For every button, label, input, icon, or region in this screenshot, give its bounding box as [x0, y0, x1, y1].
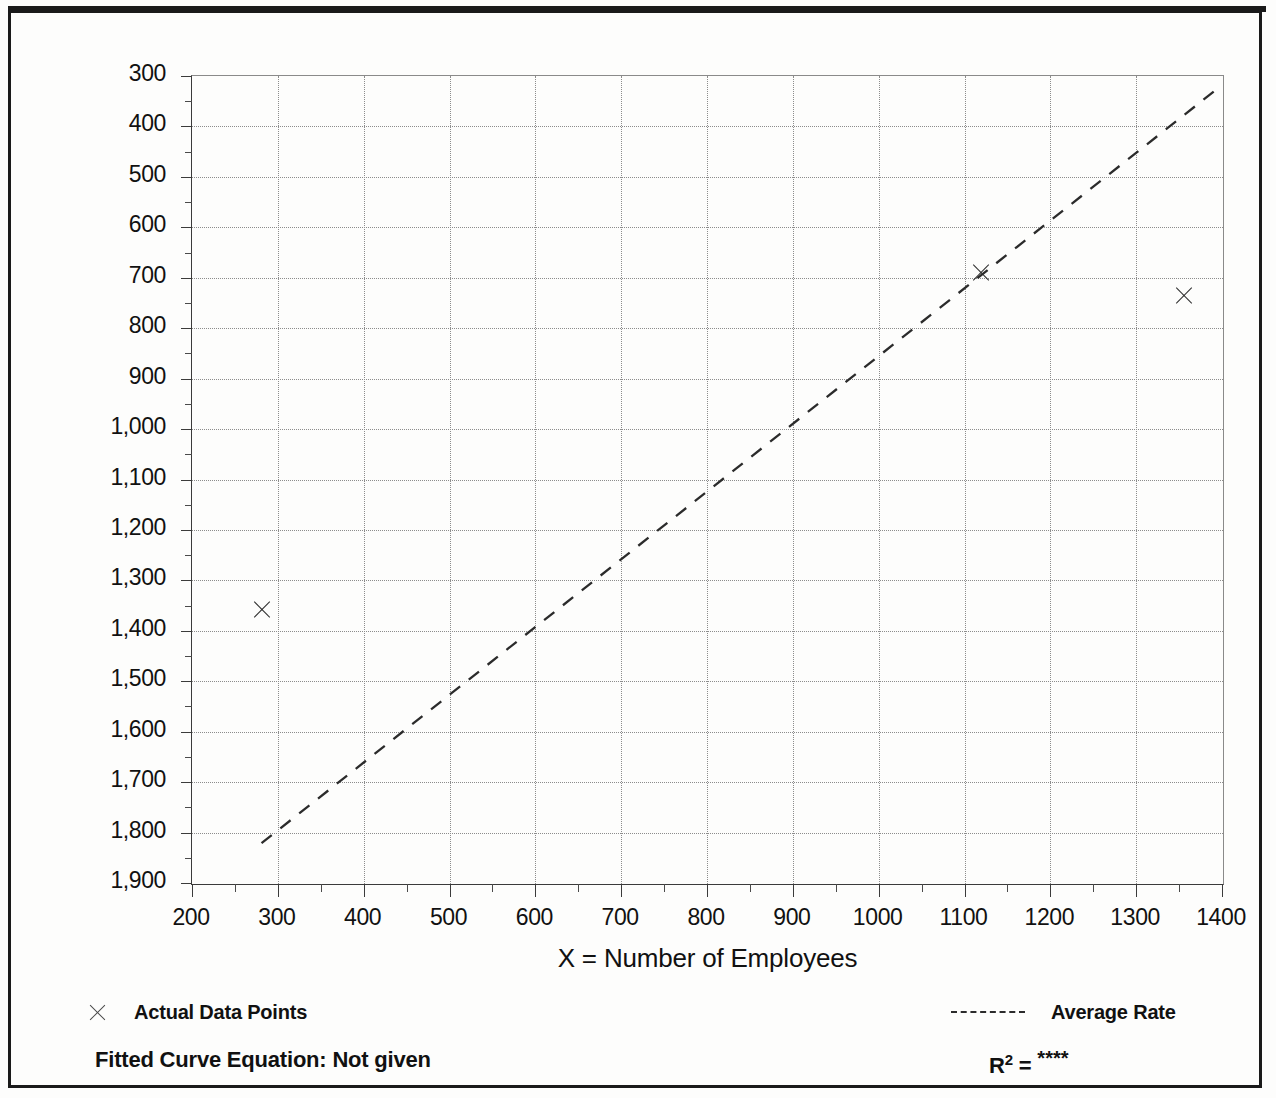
y-axis-tick [181, 379, 192, 380]
x-axis-tick-label: 900 [747, 904, 837, 931]
figure-page: T = Average Vehicle Trip Ends 1,9001,800… [0, 0, 1276, 1098]
r-squared-equals: = [1013, 1053, 1037, 1078]
gridline-vertical [707, 76, 708, 884]
x-axis-tick-label: 700 [575, 904, 665, 931]
footer: Fitted Curve Equation: Not given R2 = **… [11, 1043, 1259, 1089]
y-axis-tick [181, 530, 192, 531]
x-axis-tick [707, 884, 708, 897]
x-axis-tick [1050, 884, 1051, 897]
x-axis-minor-tick [750, 884, 751, 892]
y-axis-tick-label: 1,800 [46, 817, 166, 844]
x-axis-tick-label: 1100 [919, 904, 1009, 931]
y-axis-minor-tick [185, 505, 192, 506]
x-axis-tick-label: 600 [489, 904, 579, 931]
x-axis-tick [793, 884, 794, 897]
x-axis-tick-label: 500 [404, 904, 494, 931]
legend-item-average-rate: Average Rate [951, 991, 1176, 1033]
y-axis-minor-tick [185, 253, 192, 254]
legend-item-actual-data-points: Actual Data Points [87, 991, 307, 1033]
y-axis-minor-tick [185, 807, 192, 808]
x-axis-tick-label: 1200 [1004, 904, 1094, 931]
legend-label-actual-data-points: Actual Data Points [134, 1001, 307, 1024]
y-axis-tick-label: 1,900 [46, 867, 166, 894]
gridline-vertical [621, 76, 622, 884]
x-axis-tick-label: 200 [146, 904, 236, 931]
y-axis-tick-label: 1,400 [46, 615, 166, 642]
x-axis-minor-tick [235, 884, 236, 892]
x-axis-tick-label: 800 [661, 904, 751, 931]
x-axis-minor-tick [1007, 884, 1008, 892]
y-axis-tick [181, 126, 192, 127]
y-axis-minor-tick [185, 656, 192, 657]
y-axis-tick [181, 177, 192, 178]
y-axis-tick [181, 328, 192, 329]
gridline-vertical [1050, 76, 1051, 884]
y-axis-tick [181, 76, 192, 77]
y-axis-tick [181, 833, 192, 834]
y-axis-title: T = Average Vehicle Trip Ends [49, 0, 89, 115]
gridline-vertical [1136, 76, 1137, 884]
y-axis-minor-tick [185, 404, 192, 405]
y-axis-tick-label: 800 [46, 312, 166, 339]
figure-border-box: T = Average Vehicle Trip Ends 1,9001,800… [8, 10, 1262, 1088]
y-axis-minor-tick [185, 757, 192, 758]
r-squared-symbol: R [989, 1053, 1005, 1078]
y-axis-tick-label: 1,700 [46, 766, 166, 793]
gridline-vertical [793, 76, 794, 884]
x-axis-minor-tick [321, 884, 322, 892]
x-axis-tick [621, 884, 622, 897]
gridline-vertical [278, 76, 279, 884]
y-axis-tick-label: 500 [46, 161, 166, 188]
y-axis-minor-tick [185, 353, 192, 354]
x-axis-tick [965, 884, 966, 897]
y-axis-tick-label: 900 [46, 363, 166, 390]
legend-label-average-rate: Average Rate [1051, 1001, 1176, 1024]
data-point-marker [251, 599, 273, 621]
y-axis-tick [181, 227, 192, 228]
y-axis-tick-label: 1,100 [46, 464, 166, 491]
y-axis-tick-label: 700 [46, 262, 166, 289]
x-marker-icon [87, 1002, 108, 1023]
x-axis-tick [364, 884, 365, 897]
y-axis-tick [181, 580, 192, 581]
r-squared-value: **** [1037, 1047, 1068, 1069]
x-axis-tick [879, 884, 880, 897]
data-point-marker [970, 262, 992, 284]
y-axis-tick-label: 1,600 [46, 716, 166, 743]
y-axis-minor-tick [185, 858, 192, 859]
y-axis-minor-tick [185, 706, 192, 707]
y-axis-minor-tick [185, 101, 192, 102]
x-axis-tick-label: 400 [318, 904, 408, 931]
x-axis-minor-tick [407, 884, 408, 892]
y-axis-tick [181, 278, 192, 279]
x-axis-tick-label: 1300 [1090, 904, 1180, 931]
y-axis-tick-label: 400 [46, 110, 166, 137]
x-axis-minor-tick [1179, 884, 1180, 892]
x-axis-tick [535, 884, 536, 897]
y-axis-tick [181, 732, 192, 733]
y-axis-minor-tick [185, 303, 192, 304]
y-axis-tick-label: 1,500 [46, 665, 166, 692]
y-axis-tick [181, 782, 192, 783]
trendline-segment [262, 85, 1222, 843]
x-axis-minor-tick [836, 884, 837, 892]
x-axis-minor-tick [578, 884, 579, 892]
dashed-line-icon [951, 1011, 1025, 1013]
y-axis-minor-tick [185, 555, 192, 556]
y-axis-tick-label: 1,200 [46, 514, 166, 541]
x-axis-tick [450, 884, 451, 897]
plot-area [191, 75, 1224, 885]
gridline-vertical [965, 76, 966, 884]
y-axis-tick-label: 1,300 [46, 564, 166, 591]
x-axis-minor-tick [1093, 884, 1094, 892]
gridline-vertical [364, 76, 365, 884]
x-axis-minor-tick [922, 884, 923, 892]
y-axis-minor-tick [185, 152, 192, 153]
gridline-vertical [879, 76, 880, 884]
x-axis-title: X = Number of Employees [191, 943, 1224, 974]
data-point-marker [1173, 285, 1195, 307]
y-axis-tick-label: 600 [46, 211, 166, 238]
x-axis-minor-tick [492, 884, 493, 892]
y-axis-tick [181, 681, 192, 682]
y-axis-tick [181, 883, 192, 884]
